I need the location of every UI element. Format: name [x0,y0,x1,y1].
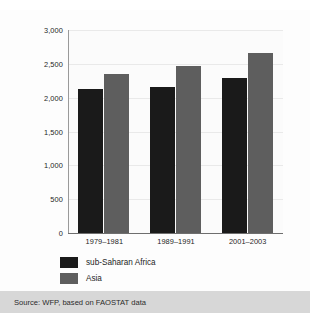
bar-group: 1989–1991 [150,30,201,233]
bar-group: 2001–2003 [222,30,273,233]
bar[interactable] [104,74,129,233]
top-crop-strip [0,0,310,10]
source-band: Source: WFP, based on FAOSTAT data [0,291,310,313]
x-axis-line [68,233,283,234]
bar-group: 1979–1981 [78,30,129,233]
y-axis-tick-label: 500 [0,195,63,204]
x-axis-tick-label: 2001–2003 [203,237,293,246]
bar[interactable] [222,78,247,233]
bar[interactable] [248,53,273,233]
legend-label: sub-Saharan Africa [86,258,156,267]
chart-figure: Kcal available per person and per day 05… [0,0,310,329]
y-axis-tick-label: 1,500 [0,127,63,136]
legend-label: Asia [86,274,102,283]
bar[interactable] [78,89,103,233]
y-axis-tick-label: 3,000 [0,26,63,35]
y-axis-tick-label: 1,000 [0,161,63,170]
chart-legend: sub-Saharan AfricaAsia [60,255,156,287]
legend-item[interactable]: Asia [60,271,156,285]
legend-item[interactable]: sub-Saharan Africa [60,255,156,269]
bar[interactable] [176,66,201,233]
y-axis-tick-label: 2,500 [0,59,63,68]
y-axis-tick-label: 0 [0,229,63,238]
legend-swatch [60,273,78,284]
legend-swatch [60,257,78,268]
y-axis-tick-label: 2,000 [0,93,63,102]
source-text: Source: WFP, based on FAOSTAT data [14,298,146,307]
y-axis-line [68,30,69,234]
bottom-strip [0,313,310,329]
bar[interactable] [150,87,175,233]
